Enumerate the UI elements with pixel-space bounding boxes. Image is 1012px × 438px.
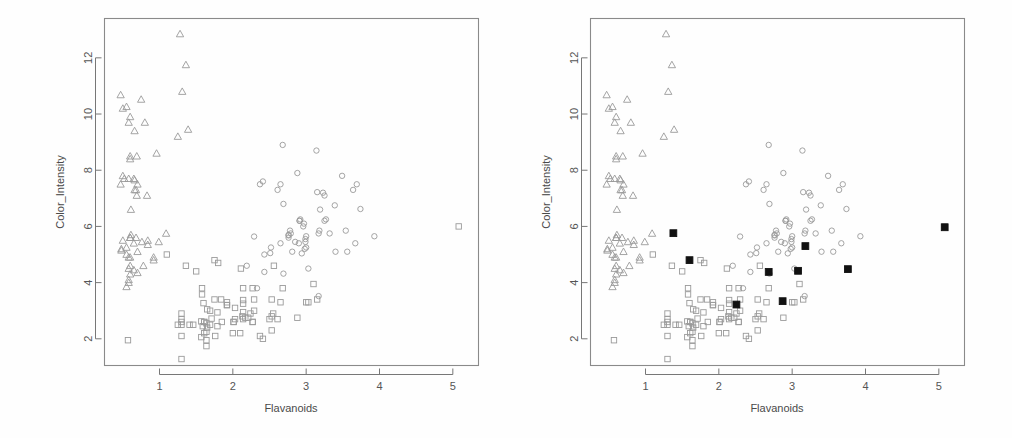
data-point-class-2 <box>789 300 794 305</box>
data-point-class-2 <box>797 281 802 286</box>
data-point-class-2 <box>761 316 766 321</box>
data-point-class-1 <box>303 245 308 250</box>
markers-left <box>117 30 461 361</box>
data-point-class-3 <box>660 133 667 139</box>
data-point-class-1 <box>314 189 319 194</box>
markers-right <box>603 30 947 361</box>
data-point-class-2 <box>251 297 256 302</box>
data-point-class-1 <box>332 203 337 208</box>
data-point-class-2 <box>673 322 678 327</box>
highlight-markers-right <box>670 224 948 308</box>
data-point-class-2 <box>232 305 237 310</box>
data-point-class-1 <box>819 249 824 254</box>
data-point-class-2 <box>183 263 188 268</box>
data-point-class-1 <box>776 249 781 254</box>
data-point-class-2 <box>240 297 245 302</box>
data-point-class-2 <box>800 297 805 302</box>
data-point-class-3 <box>127 113 134 119</box>
data-point-class-3 <box>619 153 626 159</box>
data-point-class-2 <box>303 300 308 305</box>
data-point-class-1 <box>831 249 836 254</box>
data-point-class-2 <box>757 263 762 268</box>
data-point-class-1 <box>281 271 286 276</box>
data-point-class-2 <box>695 316 700 321</box>
data-point-class-1 <box>280 142 285 147</box>
y-tick-label: 4 <box>83 280 95 286</box>
data-point-class-2 <box>726 297 731 302</box>
data-point-class-3 <box>134 248 141 254</box>
data-point-class-2 <box>278 300 283 305</box>
y-tick-label: 6 <box>569 223 581 229</box>
data-point-class-1 <box>281 201 286 206</box>
y-tick-label: 8 <box>569 167 581 173</box>
data-point-class-2 <box>179 311 184 316</box>
scatter-panel-right: 24681012 12345 Color_Intensity Flavanoid… <box>506 0 1012 438</box>
data-point-class-1 <box>244 263 249 268</box>
highlighted-data-point <box>686 257 693 264</box>
data-point-class-2 <box>792 300 797 305</box>
data-point-class-1 <box>730 263 735 268</box>
figure-root: 24681012 12345 Color_Intensity Flavanoid… <box>0 0 1012 438</box>
data-point-class-3 <box>617 127 624 133</box>
data-point-class-3 <box>639 150 646 156</box>
data-point-class-3 <box>182 61 189 67</box>
data-point-class-2 <box>685 292 690 297</box>
data-point-class-1 <box>761 187 766 192</box>
y-tick-label: 10 <box>569 108 581 120</box>
data-point-class-2 <box>679 269 684 274</box>
data-point-class-2 <box>269 297 274 302</box>
data-point-class-3 <box>143 192 150 198</box>
data-point-class-2 <box>204 338 209 343</box>
scatter-panel-left: 24681012 12345 Color_Intensity Flavanoid… <box>0 0 506 438</box>
data-point-class-2 <box>209 316 214 321</box>
x-tick-label: 2 <box>716 380 722 392</box>
data-point-class-3 <box>603 91 610 97</box>
data-point-class-2 <box>199 292 204 297</box>
data-point-class-2 <box>269 328 274 333</box>
data-point-class-2 <box>164 252 169 257</box>
scatter-plot-right: 24681012 12345 Color_Intensity Flavanoid… <box>506 0 1012 438</box>
data-point-class-1 <box>314 148 319 153</box>
data-point-class-2 <box>755 297 760 302</box>
data-point-class-2 <box>690 338 695 343</box>
data-point-class-1 <box>358 206 363 211</box>
data-point-class-1 <box>802 293 807 298</box>
data-point-class-1 <box>808 218 813 223</box>
data-point-class-1 <box>800 189 805 194</box>
data-point-class-1 <box>278 182 283 187</box>
data-point-class-2 <box>191 322 196 327</box>
data-point-class-2 <box>685 286 690 291</box>
data-point-class-3 <box>127 206 134 212</box>
data-point-class-3 <box>162 230 169 236</box>
data-point-class-3 <box>670 126 677 132</box>
data-point-class-2 <box>726 286 731 291</box>
data-point-class-2 <box>669 263 674 268</box>
highlighted-data-point <box>765 269 772 276</box>
data-point-class-1 <box>339 173 344 178</box>
data-point-class-1 <box>825 173 830 178</box>
data-point-class-1 <box>754 250 759 255</box>
data-point-class-3 <box>630 237 637 243</box>
highlighted-data-point <box>845 266 852 273</box>
data-point-class-2 <box>716 330 721 335</box>
x-tick-label: 4 <box>376 380 382 392</box>
scatter-plot-left: 24681012 12345 Color_Intensity Flavanoid… <box>0 0 506 438</box>
data-point-class-2 <box>650 252 655 257</box>
data-point-class-1 <box>800 148 805 153</box>
data-point-class-2 <box>311 281 316 286</box>
data-point-class-3 <box>123 283 130 289</box>
data-point-class-2 <box>179 333 184 338</box>
data-point-class-2 <box>665 311 670 316</box>
data-point-class-3 <box>665 88 672 94</box>
data-point-class-1 <box>251 234 256 239</box>
data-point-class-2 <box>701 310 706 315</box>
data-point-class-2 <box>237 330 242 335</box>
data-point-class-3 <box>626 262 633 268</box>
data-point-class-1 <box>766 142 771 147</box>
data-point-class-2 <box>193 269 198 274</box>
highlighted-data-point <box>670 230 677 237</box>
data-point-class-1 <box>844 206 849 211</box>
data-point-class-2 <box>230 330 235 335</box>
data-point-class-1 <box>262 269 267 274</box>
data-point-class-1 <box>754 245 759 250</box>
